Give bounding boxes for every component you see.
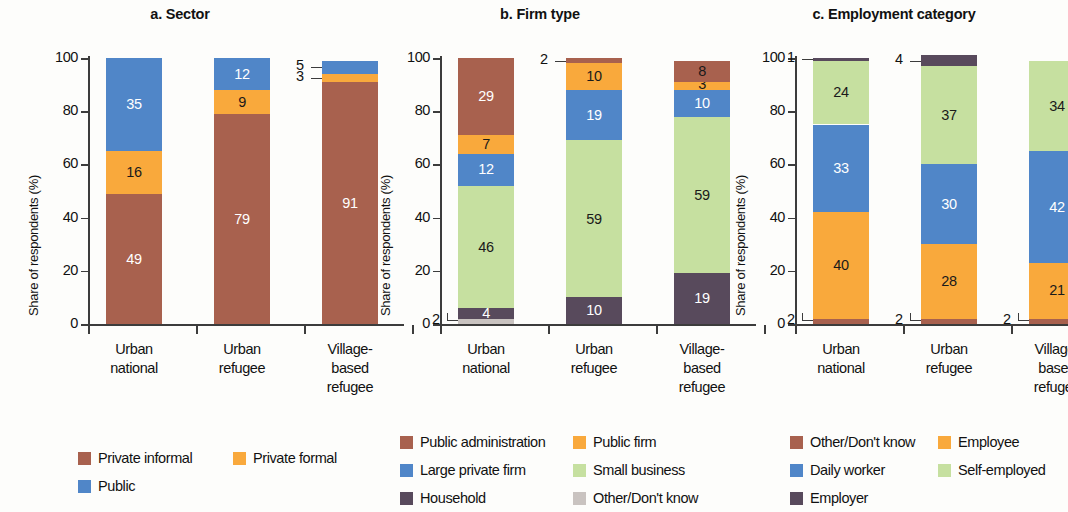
callout-leader-line (802, 313, 813, 321)
stacked-bar: 403324 (813, 56, 869, 324)
callout-value: 2 (1003, 312, 1011, 327)
legend-employment_category: Other/Don't knowEmployeeDaily workerSelf… (790, 428, 1068, 512)
legend-label: Public firm (593, 435, 656, 450)
bar-segment: 4 (458, 308, 514, 319)
legend-item[interactable]: Public (78, 472, 233, 500)
bar-segment: 24 (813, 61, 869, 125)
segment-value-label: 21 (1049, 283, 1064, 298)
x-tick-mark (656, 325, 658, 334)
legend-item[interactable]: Employer (790, 484, 938, 512)
category-label: Urbannational (789, 340, 893, 378)
y-axis-label: Share of respondents (%) (733, 175, 748, 316)
legend-label: Daily worker (810, 463, 885, 478)
legend-label: Self-employed (958, 463, 1046, 478)
callout-leader-line (555, 61, 566, 62)
segment-callout-label: 2 (540, 52, 548, 67)
bar-segment: 30 (921, 164, 977, 244)
category-label-line: national (434, 359, 538, 378)
callout-leader-line (910, 61, 921, 62)
y-tick-mark (81, 164, 89, 166)
segment-value-label: 46 (478, 240, 493, 255)
legend-item[interactable]: Employee (938, 428, 1068, 456)
y-tick-label: 40 (386, 209, 430, 225)
legend-swatch (938, 464, 951, 477)
x-axis-line (88, 324, 404, 326)
y-axis-label: Share of respondents (%) (26, 175, 41, 316)
chart-panel-sector: a. SectorShare of respondents (%)0204060… (0, 0, 360, 512)
segment-value-label: 34 (1049, 99, 1064, 114)
chart-panel-firm_type: b. Firm typeShare of respondents (%)0204… (360, 0, 720, 512)
y-axis-line (795, 56, 797, 324)
segment-value-label: 19 (586, 108, 601, 123)
y-tick-label: 20 (386, 262, 430, 278)
y-tick-label: 0 (386, 315, 430, 331)
plot-area-employment_category: Share of respondents (%)0204060801004033… (720, 0, 1068, 512)
bar-segment: 12 (458, 154, 514, 186)
category-label-line: refugee (542, 359, 646, 378)
y-tick-mark (433, 58, 441, 60)
legend-item[interactable]: Self-employed (938, 456, 1068, 484)
x-tick-mark (88, 325, 90, 334)
legend-item[interactable]: Daily worker (790, 456, 938, 484)
callout-leader-line (447, 313, 458, 321)
segment-value-label: 35 (126, 97, 141, 112)
legend-label: Employee (958, 435, 1019, 450)
bar-segment: 46 (458, 186, 514, 308)
legend-label: Public (98, 479, 135, 494)
y-tick-label: 40 (741, 209, 785, 225)
legend-item[interactable]: Large private firm (400, 456, 573, 484)
segment-value-label: 19 (694, 291, 709, 306)
y-tick-label: 80 (741, 102, 785, 118)
segment-value-label: 24 (833, 85, 848, 100)
bar-segment (1029, 319, 1068, 324)
category-label-line: refugee (1005, 378, 1068, 397)
bar-segment: 21 (1029, 263, 1068, 319)
category-label-line: refugee (190, 359, 294, 378)
callout-leader-line (311, 78, 322, 79)
segment-callout-label: 2 (787, 312, 795, 327)
legend-item[interactable]: Private informal (78, 444, 233, 472)
legend-swatch (938, 436, 951, 449)
segment-value-label: 91 (342, 196, 357, 211)
segment-callout-label: 1 (787, 50, 795, 65)
segment-value-label: 42 (1049, 200, 1064, 215)
legend-swatch (78, 480, 91, 493)
bar-segment: 42 (1029, 151, 1068, 263)
segment-value-label: 33 (833, 161, 848, 176)
legend-swatch (573, 436, 586, 449)
callout-value: 4 (895, 52, 903, 67)
legend-label: Household (420, 491, 486, 506)
category-label-line: Urban (897, 340, 1001, 359)
y-tick-mark (433, 271, 441, 273)
x-tick-mark (903, 325, 905, 334)
segment-value-label: 37 (941, 108, 956, 123)
legend-swatch (573, 492, 586, 505)
y-tick-label: 60 (386, 155, 430, 171)
y-tick-mark (433, 111, 441, 113)
category-label: Urbanrefugee (897, 340, 1001, 378)
legend-item[interactable]: Household (400, 484, 573, 512)
bar-segment: 9 (214, 90, 270, 114)
legend-swatch (790, 492, 803, 505)
callout-value: 5 (296, 58, 304, 73)
callout-value: 2 (432, 312, 440, 327)
segment-value-label: 59 (586, 212, 601, 227)
y-tick-label: 0 (34, 315, 78, 331)
segment-value-label: 4 (482, 306, 490, 321)
legend-item[interactable]: Other/Don't know (790, 428, 938, 456)
x-tick-mark (440, 325, 442, 334)
category-label-line: Urban (434, 340, 538, 359)
bar-segment: 40 (813, 212, 869, 318)
y-tick-mark (788, 111, 796, 113)
segment-value-label: 8 (698, 64, 706, 79)
y-axis-line (440, 56, 442, 324)
legend-item[interactable]: Public administration (400, 428, 573, 456)
bar-segment: 34 (1029, 61, 1068, 151)
legend-label: Public administration (420, 435, 545, 450)
stacked-bar: 491635 (106, 56, 162, 324)
y-tick-mark (81, 111, 89, 113)
stacked-bar: 10591910 (566, 56, 622, 324)
y-tick-label: 100 (34, 49, 78, 65)
plot-area-firm_type: Share of respondents (%)0204060801004461… (360, 0, 720, 512)
legend-label: Large private firm (420, 463, 526, 478)
